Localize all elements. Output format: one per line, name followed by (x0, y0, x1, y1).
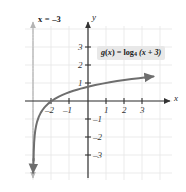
log-function-curve-lower-arrow (33, 159, 34, 173)
function-paren-close: ) (112, 48, 115, 57)
y-tick-label--3: –3 (93, 151, 102, 160)
y-tick-label-2: 2 (78, 61, 83, 70)
x-tick-label--1: –1 (63, 106, 72, 115)
log-argument: (x + 3) (139, 48, 161, 57)
log-keyword: log (123, 48, 133, 57)
y-tick-label--1: –1 (93, 115, 102, 124)
y-tick-label-1: 1 (78, 79, 83, 88)
graph-canvas (0, 0, 186, 192)
x-tick-label--2: –2 (45, 106, 54, 115)
y-tick-label-3: 3 (78, 43, 83, 52)
y-tick-label--2: –2 (93, 133, 102, 142)
x-tick-label-3: 3 (140, 106, 145, 115)
y-axis-label: y (92, 13, 96, 22)
function-equation-label: g(x) = log4 (x + 3) (97, 46, 165, 60)
asymptote-equation-label: x = –3 (38, 15, 61, 24)
log-base: 4 (134, 51, 137, 57)
x-tick-label-1: 1 (104, 106, 109, 115)
x-axis-label: x (174, 94, 178, 103)
logarithmic-function-graph-figure: –2 –1 1 2 3 3 2 1 –1 –2 –3 y x x = –3 g(… (0, 0, 186, 192)
x-tick-label-2: 2 (122, 106, 127, 115)
function-equals: = (117, 48, 122, 57)
